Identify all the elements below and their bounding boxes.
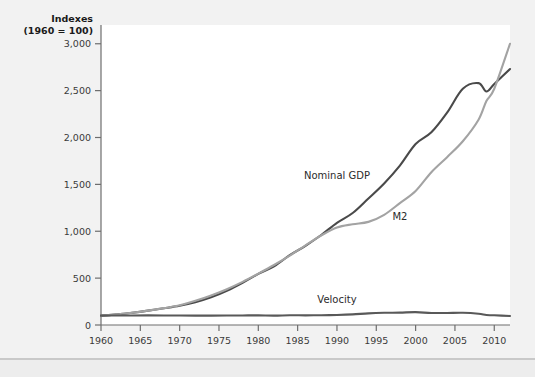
y-tick-label: 2,000 <box>64 132 91 143</box>
x-tick-label: 1960 <box>89 335 113 346</box>
series-label-velocity: Velocity <box>317 294 356 305</box>
y-tick-label: 3,000 <box>64 38 91 49</box>
x-tick-label: 1980 <box>246 335 270 346</box>
x-tick-label: 1970 <box>168 335 192 346</box>
series-label-nominal-gdp: Nominal GDP <box>304 170 370 181</box>
x-tick-label: 2005 <box>443 335 467 346</box>
footer-band <box>0 360 535 377</box>
y-axis-title-line1: Indexes <box>51 13 93 24</box>
y-tick-label: 500 <box>73 273 91 284</box>
y-tick-label: 2,500 <box>64 85 91 96</box>
x-tick-label: 2010 <box>482 335 506 346</box>
x-tick-label: 2000 <box>404 335 428 346</box>
series-label-m2: M2 <box>392 211 407 222</box>
x-tick-label: 1965 <box>128 335 152 346</box>
y-tick-label: 0 <box>85 320 91 331</box>
y-axis-title-line2: (1960 = 100) <box>23 25 93 36</box>
x-tick-label: 1985 <box>286 335 310 346</box>
x-tick-label: 1990 <box>325 335 349 346</box>
x-tick-label: 1995 <box>364 335 388 346</box>
money-velocity-chart: Indexes (1960 = 100) 05001,0001,5002,000… <box>0 0 535 377</box>
y-tick-label: 1,500 <box>64 179 91 190</box>
y-tick-label: 1,000 <box>64 226 91 237</box>
x-tick-label: 1975 <box>207 335 231 346</box>
